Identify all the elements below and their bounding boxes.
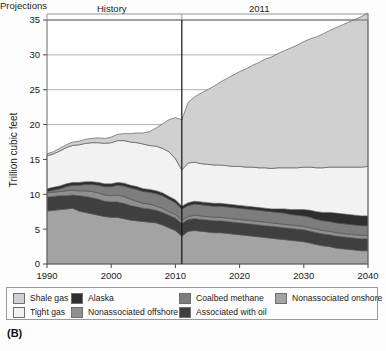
y-tick-label: 5 (35, 224, 40, 235)
x-tick-label: 2030 (293, 270, 314, 281)
legend-swatch (13, 307, 25, 318)
legend-item[interactable]: Nonassociated offshore (71, 305, 178, 319)
chart-panel: History 2011 Projections 199020002010202… (0, 0, 386, 351)
panel-tag: (B) (7, 327, 22, 339)
x-tick-label: 2020 (229, 270, 250, 281)
y-tick-labels: 05101520253035 (29, 14, 40, 269)
y-tick-label: 25 (29, 84, 40, 95)
legend-item[interactable]: Nonassociated onshore (275, 291, 382, 305)
y-tick-label: 35 (29, 14, 40, 25)
legend-item[interactable]: Associated with oil (179, 305, 267, 319)
y-tick-label: 15 (29, 154, 40, 165)
legend-label: Coalbed methane (196, 293, 264, 303)
x-tick-labels: 199020002010202020302040 (36, 270, 378, 281)
legend-label: Associated with oil (196, 307, 267, 317)
y-axis-title: Trillion cubic feet (8, 112, 19, 187)
y-tick-label: 20 (29, 119, 40, 130)
legend-label: Shale gas (30, 293, 68, 303)
legend-label: Alaska (88, 293, 114, 303)
legend-item[interactable]: Alaska (71, 291, 114, 305)
band-separator-ticks (47, 14, 368, 20)
legend-swatch (71, 307, 83, 318)
y-tick-label: 30 (29, 49, 40, 60)
y-tick-label: 0 (35, 258, 40, 269)
legend-swatch (179, 307, 191, 318)
x-tick-label: 1990 (36, 270, 57, 281)
legend-swatch (71, 293, 83, 304)
chart-legend: Shale gasAlaskaCoalbed methaneNonassocia… (6, 287, 378, 320)
chart-svg: 199020002010202020302040 05101520253035 … (0, 0, 386, 290)
y-tick-label: 10 (29, 189, 40, 200)
legend-label: Nonassociated onshore (292, 293, 382, 303)
legend-swatch (179, 293, 191, 304)
x-tick-label: 2040 (357, 270, 378, 281)
stacked-area-chart: 199020002010202020302040 05101520253035 … (0, 0, 386, 290)
legend-item[interactable]: Coalbed methane (179, 291, 264, 305)
legend-swatch (275, 293, 287, 304)
legend-label: Tight gas (30, 307, 65, 317)
legend-item[interactable]: Shale gas (13, 291, 68, 305)
x-tick-label: 2000 (101, 270, 122, 281)
x-tick-label: 2010 (165, 270, 186, 281)
legend-item[interactable]: Tight gas (13, 305, 65, 319)
legend-swatch (13, 293, 25, 304)
legend-label: Nonassociated offshore (88, 307, 178, 317)
